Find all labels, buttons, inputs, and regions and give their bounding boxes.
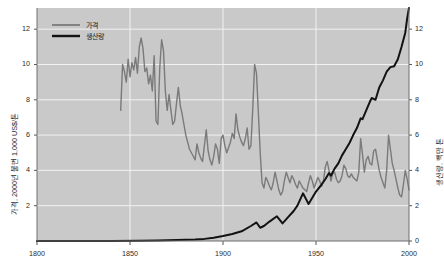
xtick-label: 1950 bbox=[296, 249, 336, 258]
ytick-label-right: 0 bbox=[415, 236, 437, 245]
ytick-label-right: 12 bbox=[415, 24, 437, 33]
ytick-label-left: 10 bbox=[8, 59, 30, 68]
xtick-label: 2000 bbox=[389, 249, 429, 258]
ytick-label-left: 12 bbox=[8, 24, 30, 33]
ytick-label-right: 4 bbox=[415, 165, 437, 174]
ytick-label-left: 8 bbox=[8, 95, 30, 104]
legend-label: 가격 bbox=[86, 20, 98, 30]
xtick-label: 1900 bbox=[203, 249, 243, 258]
ytick-label-right: 6 bbox=[415, 130, 437, 139]
xtick-label: 1850 bbox=[110, 249, 150, 258]
legend-label: 생산량 bbox=[86, 31, 104, 41]
ytick-label-right: 8 bbox=[415, 95, 437, 104]
right-axis-title: 생산량, 백만 톤 bbox=[434, 138, 444, 186]
ytick-label-left: 6 bbox=[8, 130, 30, 139]
ytick-label-right: 2 bbox=[415, 201, 437, 210]
ytick-label-left: 4 bbox=[8, 165, 30, 174]
ytick-label-left: 2 bbox=[8, 201, 30, 210]
ytick-label-right: 10 bbox=[415, 59, 437, 68]
xtick-label: 1800 bbox=[17, 249, 57, 258]
